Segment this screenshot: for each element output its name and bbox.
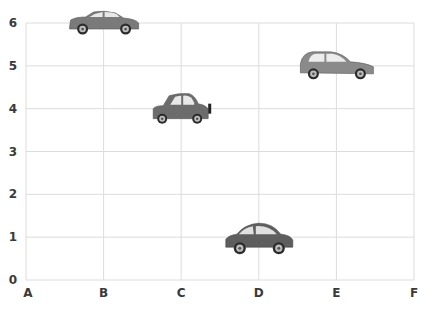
y-tick-label: 6 xyxy=(9,16,17,30)
x-tick-label: D xyxy=(254,286,264,300)
y-axis-tick-labels: 0123456 xyxy=(9,16,17,287)
scatter-chart: 0123456 ABCDEF xyxy=(0,0,429,310)
y-tick-label: 3 xyxy=(9,145,17,159)
x-tick-label: B xyxy=(99,286,108,300)
y-tick-label: 1 xyxy=(9,230,17,244)
y-tick-label: 2 xyxy=(9,187,17,201)
x-tick-label: A xyxy=(23,286,33,300)
y-tick-label: 0 xyxy=(9,273,17,287)
x-axis-tick-labels: ABCDEF xyxy=(23,286,418,300)
x-tick-label: C xyxy=(177,286,186,300)
x-tick-label: E xyxy=(332,286,340,300)
compact-car-icon xyxy=(153,93,211,123)
x-tick-label: F xyxy=(410,286,418,300)
y-tick-label: 5 xyxy=(9,59,17,73)
y-tick-label: 4 xyxy=(9,102,17,116)
sedan-car-icon xyxy=(70,11,139,34)
gridlines xyxy=(26,23,414,280)
data-points xyxy=(70,11,374,254)
